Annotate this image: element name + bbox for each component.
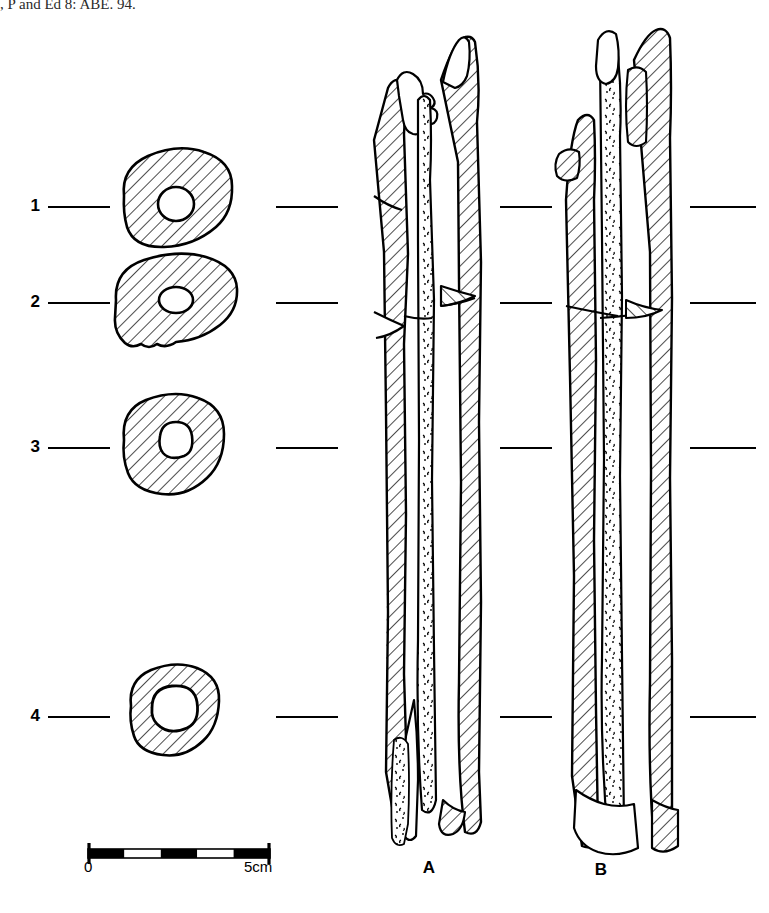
bone-b-left-cortex xyxy=(566,115,598,847)
bone-b-inner-flake xyxy=(626,67,647,146)
section-2-medullary-cavity xyxy=(159,287,193,313)
bone-a-top-spur xyxy=(443,37,470,88)
section-1-medullary-cavity xyxy=(158,187,194,221)
scale-end-label: 5cm xyxy=(244,858,272,875)
figure-root: , P and Ed 8: ABE. 94. xyxy=(0,0,769,913)
section-label-2: 2 xyxy=(22,292,40,312)
level-ticks-between-bones xyxy=(500,207,552,717)
section-label-1: 1 xyxy=(22,196,40,216)
scale-segment-2 xyxy=(161,849,197,858)
bone-b-medullary-cavity xyxy=(600,51,624,840)
bone-a-right-cortex xyxy=(441,37,481,834)
level-ticks-right xyxy=(690,207,756,717)
section-label-4: 4 xyxy=(22,706,40,726)
scale-segment-3 xyxy=(197,849,233,858)
cross-section-4 xyxy=(130,664,219,755)
scale-bar xyxy=(88,843,270,864)
scale-start-label: 0 xyxy=(84,858,92,875)
scale-segment-4 xyxy=(234,849,270,858)
bone-a-distal-marrow xyxy=(391,738,409,845)
section-leader-lines xyxy=(48,207,110,717)
cross-section-3 xyxy=(124,394,225,494)
section-4-medullary-cavity xyxy=(152,686,198,731)
scale-segment-1 xyxy=(124,849,160,858)
level-ticks-mid-left xyxy=(276,207,338,717)
cross-section-2 xyxy=(115,254,237,347)
cross-section-1 xyxy=(124,148,232,247)
bone-view-label-a: A xyxy=(418,858,440,878)
section-3-medullary-cavity xyxy=(159,422,192,458)
bone-b-right-cortex xyxy=(634,29,672,844)
bone-view-label-b: B xyxy=(590,860,612,880)
bone-b-proximal-spur xyxy=(596,31,619,84)
bone-b-left-flake xyxy=(555,149,579,180)
bone-a-medullary-cavity xyxy=(418,96,437,812)
bone-view-b xyxy=(555,29,678,854)
bone-view-a xyxy=(374,37,481,845)
bone-b-distal-knob xyxy=(652,800,678,852)
bone-a-left-cortex xyxy=(374,80,408,819)
scale-segment-0 xyxy=(88,849,124,858)
section-label-3: 3 xyxy=(22,437,40,457)
bone-illustration-svg xyxy=(0,0,769,913)
